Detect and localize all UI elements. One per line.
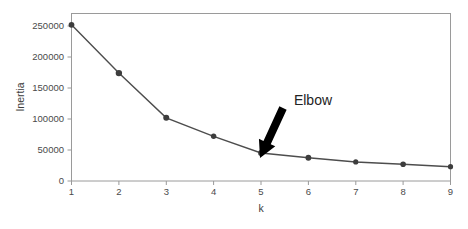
data-point-marker	[353, 159, 358, 164]
elbow-method-chart: 0 50000 100000 150000 200000 250000 1 2 …	[0, 0, 468, 229]
x-tick-label: 8	[400, 186, 405, 197]
x-tick-label: 2	[116, 186, 121, 197]
y-tick-label: 250000	[32, 20, 64, 31]
chart-canvas: 0 50000 100000 150000 200000 250000 1 2 …	[0, 0, 468, 229]
y-tick-label: 50000	[38, 144, 64, 155]
x-tick-label: 9	[448, 186, 453, 197]
x-axis-title: k	[258, 202, 264, 214]
data-point-marker	[69, 22, 75, 28]
data-point-marker	[116, 70, 122, 76]
data-point-marker	[163, 115, 169, 121]
y-tick-label: 200000	[32, 51, 64, 62]
x-tick-label: 3	[164, 186, 169, 197]
x-tick-label: 1	[69, 186, 74, 197]
x-tick-label: 6	[306, 186, 311, 197]
y-tick-label: 150000	[32, 82, 64, 93]
y-tick-label: 0	[59, 175, 64, 186]
y-tick-label: 100000	[32, 113, 64, 124]
data-point-marker	[211, 134, 216, 139]
x-tick-label: 7	[353, 186, 358, 197]
x-tick-label: 4	[211, 186, 216, 197]
elbow-annotation-label: Elbow	[294, 92, 333, 108]
data-point-marker	[448, 164, 453, 169]
y-axis-title: Inertia	[14, 82, 26, 111]
data-point-marker	[305, 155, 311, 161]
x-tick-label: 5	[258, 186, 263, 197]
data-point-marker	[400, 162, 406, 168]
